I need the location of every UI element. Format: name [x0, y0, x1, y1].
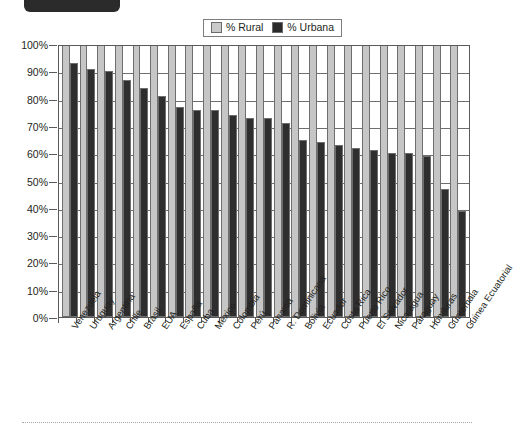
bar-rural [185, 45, 193, 317]
bar-rural [168, 45, 176, 317]
bar-urbana [264, 118, 272, 317]
bar-group [291, 46, 309, 317]
y-axis-tick-mark [49, 154, 57, 155]
bar-group [185, 46, 203, 317]
y-axis-tick-mark [49, 100, 57, 101]
bar-rural [256, 45, 264, 317]
y-axis-tick-label: 100% [21, 39, 48, 51]
y-axis-tick-label: 80% [27, 94, 48, 106]
bar-rural [327, 45, 335, 317]
bar-group [96, 46, 114, 317]
y-axis-tick-label: 30% [27, 230, 48, 242]
bar-rural [397, 45, 405, 317]
bar-rural [221, 45, 229, 317]
bar-urbana [246, 118, 254, 317]
bar-rural [238, 45, 246, 317]
bar-rural [62, 45, 70, 317]
bar-urbana [105, 71, 113, 317]
bar-urbana [87, 69, 95, 317]
bar-group [449, 46, 467, 317]
bar-group [132, 46, 150, 317]
bar-series-container [59, 46, 469, 317]
bar-rural [133, 45, 141, 317]
bar-rural [380, 45, 388, 317]
legend-item-urbana: % Urbana [272, 22, 334, 33]
chart-legend: % Rural % Urbana [203, 19, 342, 37]
bar-urbana [211, 110, 219, 317]
y-axis-tick-mark [49, 209, 57, 210]
y-axis-tick-mark [49, 236, 57, 237]
bar-group [414, 46, 432, 317]
bar-rural [115, 45, 123, 317]
y-axis: 100%90%80%70%60%50%40%30%20%10%0% [0, 45, 58, 318]
y-axis-tick-mark [49, 45, 57, 46]
bottom-dotted-rule [22, 422, 472, 423]
y-axis-tick-mark [49, 263, 57, 264]
y-axis-tick-label: 10% [27, 285, 48, 297]
y-axis-tick-label: 20% [27, 257, 48, 269]
bar-urbana [158, 96, 166, 317]
bar-rural [415, 45, 423, 317]
x-axis-labels: VenezuelaUruguayArgentinaChileBrasilEUAE… [0, 318, 493, 418]
bar-group [220, 46, 238, 317]
y-axis-tick-label: 40% [27, 203, 48, 215]
y-axis-tick-mark [49, 291, 57, 292]
bar-group [255, 46, 273, 317]
bar-rural [344, 45, 352, 317]
bar-rural [291, 45, 299, 317]
bar-urbana [70, 63, 78, 317]
bar-urbana [123, 80, 131, 318]
bar-group [202, 46, 220, 317]
bar-rural [362, 45, 370, 317]
bar-rural [203, 45, 211, 317]
y-axis-tick-label: 60% [27, 148, 48, 160]
bar-rural [274, 45, 282, 317]
bar-urbana [193, 110, 201, 317]
bar-rural [450, 45, 458, 317]
bar-urbana [176, 107, 184, 317]
bar-group [61, 46, 79, 317]
legend-item-rural: % Rural [211, 22, 263, 33]
bar-group [344, 46, 362, 317]
legend-label-rural: % Rural [226, 22, 263, 33]
bar-rural [150, 45, 158, 317]
bar-urbana [229, 115, 237, 317]
legend-swatch-urbana-icon [272, 22, 283, 33]
bar-rural [80, 45, 88, 317]
bar-group [114, 46, 132, 317]
legend-label-urbana: % Urbana [287, 22, 334, 33]
bar-group [149, 46, 167, 317]
chart-plot-area [58, 45, 470, 318]
bar-group [326, 46, 344, 317]
bar-group [167, 46, 185, 317]
bar-rural [433, 45, 441, 317]
bar-group [273, 46, 291, 317]
bar-urbana [335, 145, 343, 317]
bar-group [238, 46, 256, 317]
y-axis-tick-mark [49, 182, 57, 183]
y-axis-tick-label: 90% [27, 66, 48, 78]
top-black-tab [24, 0, 120, 12]
bar-urbana [140, 88, 148, 317]
y-axis-tick-mark [49, 72, 57, 73]
bar-group [361, 46, 379, 317]
bar-group [79, 46, 97, 317]
legend-swatch-rural-icon [211, 22, 222, 33]
y-axis-tick-mark [49, 127, 57, 128]
bar-group [432, 46, 450, 317]
y-axis-tick-label: 70% [27, 121, 48, 133]
bar-group [379, 46, 397, 317]
bar-urbana [282, 123, 290, 317]
bar-rural [97, 45, 105, 317]
bar-group [396, 46, 414, 317]
y-axis-tick-label: 50% [27, 176, 48, 188]
